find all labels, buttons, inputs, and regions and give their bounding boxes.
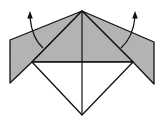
origami-diagram xyxy=(0,0,164,120)
